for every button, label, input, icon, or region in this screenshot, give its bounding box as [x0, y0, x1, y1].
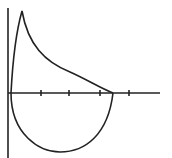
- flow-volume-diagram: [0, 0, 172, 158]
- diagram-canvas: [0, 0, 172, 158]
- inspiratory-curve: [11, 93, 113, 152]
- expiratory-curve: [11, 11, 113, 93]
